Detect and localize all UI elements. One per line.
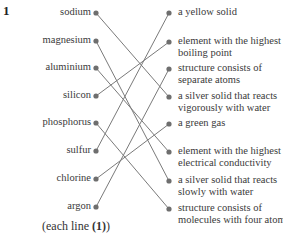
match-line-chlorine [96, 124, 169, 179]
match-line-sulfur [96, 13, 169, 151]
match-line-sodium [96, 13, 169, 97]
left-dot [93, 93, 98, 98]
right-dot [166, 121, 171, 126]
right-dot [166, 10, 171, 15]
match-line-silicon [96, 42, 169, 96]
right-dot [166, 94, 171, 99]
right-dot [166, 66, 171, 71]
left-dot [93, 65, 98, 70]
match-line-aluminium [96, 68, 169, 152]
right-dot [166, 206, 171, 211]
footer-mark: (1) [92, 219, 106, 233]
left-dot [93, 120, 98, 125]
right-dot [166, 178, 171, 183]
footer-prefix: (each line [42, 219, 92, 233]
mark-scheme-note: (each line (1)) [42, 219, 110, 234]
match-line-magnesium [96, 41, 169, 181]
footer-suffix: ) [106, 219, 110, 233]
matching-lines [0, 0, 283, 234]
left-dot [93, 38, 98, 43]
match-line-phosphorus [96, 123, 169, 209]
right-dot [166, 149, 171, 154]
left-dot [93, 10, 98, 15]
left-dot [93, 148, 98, 153]
left-dot [93, 204, 98, 209]
right-dot [166, 39, 171, 44]
left-dot [93, 176, 98, 181]
match-line-argon [96, 69, 169, 207]
